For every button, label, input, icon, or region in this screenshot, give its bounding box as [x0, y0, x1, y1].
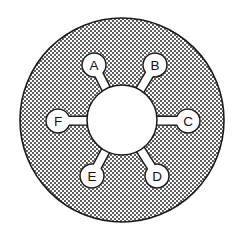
- node-label-e: E: [87, 169, 96, 184]
- node-label-b: B: [150, 58, 159, 73]
- node-label-a: A: [89, 58, 98, 73]
- node-disc-diagram: ABCDEF: [0, 0, 245, 237]
- central-hub: [87, 85, 157, 155]
- node-label-d: D: [152, 169, 162, 184]
- figure-root: ABCDEF: [0, 0, 245, 237]
- node-label-f: F: [54, 114, 62, 129]
- node-label-c: C: [183, 114, 193, 129]
